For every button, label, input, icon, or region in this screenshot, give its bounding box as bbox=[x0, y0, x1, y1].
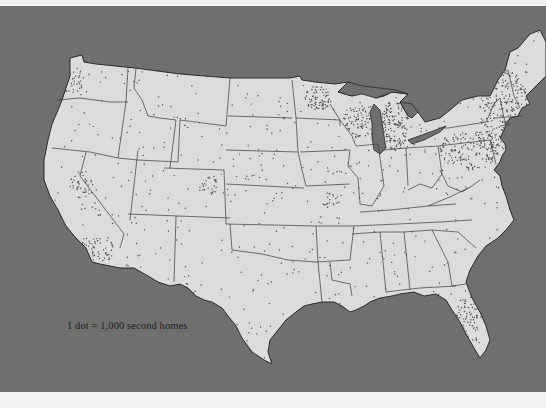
us-dot-density-map bbox=[0, 0, 546, 408]
map-page: 1 dot = 1,000 second homes bbox=[0, 0, 546, 408]
legend-text: 1 dot = 1,000 second homes bbox=[67, 320, 188, 331]
